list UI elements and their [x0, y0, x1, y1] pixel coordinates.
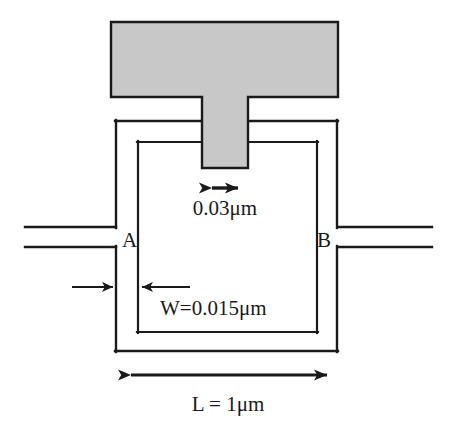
ring-length-label: L = 1μm — [192, 392, 265, 416]
figure-root: 0.03μm W=0.015μm L = 1μm A B — [0, 0, 451, 432]
ring-length-dimension: L = 1μm — [131, 375, 327, 416]
terminal-label-a: A — [122, 228, 138, 252]
gate-width-dimension: 0.03μm — [193, 188, 257, 220]
lead-right-group — [338, 227, 432, 247]
gate-electrode-pad — [111, 22, 338, 168]
arm-width-label: W=0.015μm — [160, 296, 267, 320]
arm-width-dimension: W=0.015μm — [72, 287, 267, 320]
lead-left-group — [25, 227, 116, 247]
gate-width-label: 0.03μm — [193, 196, 257, 220]
quantum-ring-diagram: 0.03μm W=0.015μm L = 1μm A B — [0, 0, 451, 432]
terminal-label-b: B — [317, 228, 331, 252]
gate-electrode — [111, 22, 338, 168]
